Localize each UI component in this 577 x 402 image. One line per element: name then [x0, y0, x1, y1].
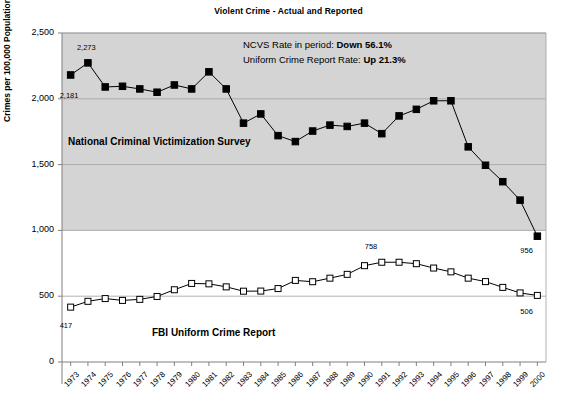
data-point: [517, 290, 523, 296]
data-point: [137, 296, 143, 302]
data-point: [102, 84, 109, 91]
data-point: [361, 120, 368, 127]
data-point: [171, 82, 178, 89]
data-point: [189, 280, 195, 286]
annotation-line: Uniform Crime Report Rate: Up 21.3%: [243, 54, 406, 65]
data-point: [258, 111, 265, 118]
data-point: [258, 288, 264, 294]
point-value-label: 956: [520, 246, 533, 255]
data-point: [327, 275, 333, 281]
y-tick-label: 2,500: [14, 27, 54, 37]
data-point: [102, 296, 108, 302]
data-point: [448, 98, 455, 105]
data-point: [431, 265, 437, 271]
data-point: [119, 83, 126, 90]
data-point: [413, 261, 419, 267]
point-value-label: 758: [365, 242, 378, 251]
data-point: [171, 287, 177, 293]
data-point: [309, 128, 316, 134]
data-point: [534, 292, 540, 298]
data-point: [275, 132, 282, 139]
data-point: [482, 162, 489, 169]
data-point: [188, 86, 195, 93]
data-point: [500, 178, 507, 185]
violent-crime-chart: Violent Crime - Actual and Reported Crim…: [0, 0, 577, 402]
data-point: [465, 275, 471, 281]
data-point: [85, 60, 92, 67]
data-point: [430, 98, 437, 105]
y-tick-label: 500: [14, 290, 54, 300]
data-point: [534, 233, 541, 240]
data-point: [344, 271, 350, 277]
data-point: [396, 113, 403, 120]
annotation-value: Up 21.3%: [363, 54, 405, 65]
data-point: [223, 86, 230, 93]
data-point: [396, 259, 402, 265]
data-point: [67, 72, 74, 79]
point-value-label: 506: [520, 307, 533, 316]
annotation-line: NCVS Rate in period: Down 56.1%: [243, 39, 392, 50]
data-point: [327, 122, 334, 128]
data-point: [292, 277, 298, 283]
y-tick-label: 1,500: [14, 159, 54, 169]
data-point: [206, 69, 213, 76]
data-point: [379, 130, 386, 137]
data-point: [206, 281, 212, 287]
annotation-prefix: NCVS Rate in period:: [243, 39, 336, 50]
data-point: [154, 89, 161, 96]
data-point: [68, 304, 74, 310]
data-point: [379, 259, 385, 265]
y-tick-label: 2,000: [14, 93, 54, 103]
data-point: [517, 197, 524, 204]
data-point: [154, 293, 160, 299]
data-point: [310, 279, 316, 285]
series-inline-label: FBI Uniform Crime Report: [152, 327, 275, 338]
series-inline-label: National Criminal Victimization Survey: [68, 136, 251, 147]
data-point: [223, 284, 229, 290]
data-point: [275, 286, 281, 292]
annotation-prefix: Uniform Crime Report Rate:: [243, 54, 363, 65]
point-value-label: 417: [60, 321, 73, 330]
data-point: [362, 263, 368, 269]
data-point: [240, 120, 247, 127]
point-value-label: 2,273: [77, 43, 96, 52]
data-point: [500, 284, 506, 290]
data-point: [465, 144, 472, 151]
y-tick-label: 0: [14, 356, 54, 366]
data-point: [413, 106, 420, 113]
data-point: [344, 123, 351, 130]
data-point: [448, 269, 454, 275]
point-value-label: 2,181: [60, 91, 79, 100]
data-point: [483, 279, 489, 285]
data-point: [137, 86, 144, 93]
data-point: [85, 298, 91, 304]
data-point: [292, 138, 299, 145]
data-point: [241, 288, 247, 294]
data-point: [120, 297, 126, 303]
annotation-value: Down 56.1%: [336, 39, 391, 50]
y-tick-label: 1,000: [14, 224, 54, 234]
